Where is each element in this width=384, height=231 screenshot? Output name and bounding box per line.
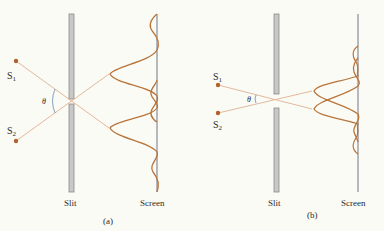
- screen-label: Screen: [140, 198, 165, 208]
- diffraction-diagram: S1 S2 θ Slit Screen (a) S1 S2 θ Slit Scr…: [0, 0, 384, 231]
- angle-arc: [255, 95, 256, 103]
- ray-s1: [16, 61, 109, 128]
- theta-label: θ: [42, 97, 46, 106]
- slit-barrier-upper: [274, 14, 279, 94]
- diffraction-pattern-upper: [110, 14, 158, 122]
- slit-barrier-lower: [69, 104, 74, 192]
- screen-label: Screen: [341, 198, 366, 208]
- panel-a: S1 S2 θ Slit Screen (a): [7, 14, 165, 226]
- s1-label: S1: [213, 71, 223, 84]
- ray-s1: [218, 85, 312, 109]
- s2-label: S2: [213, 119, 223, 132]
- caption-a: (a): [103, 216, 113, 226]
- diffraction-pattern-upper: [314, 46, 359, 142]
- source-s1-dot: [14, 59, 18, 63]
- s2-label: S2: [7, 125, 17, 138]
- panel-b: S1 S2 θ Slit Screen (b): [213, 14, 366, 220]
- s1-label: S1: [7, 70, 17, 83]
- diffraction-pattern-lower: [110, 80, 158, 192]
- source-s2-dot: [14, 139, 18, 143]
- caption-b: (b): [307, 210, 318, 220]
- theta-label: θ: [247, 95, 251, 104]
- ray-s2: [16, 74, 109, 141]
- slit-barrier-lower: [274, 108, 279, 192]
- ray-s2: [218, 91, 312, 113]
- angle-arc: [53, 89, 56, 113]
- diffraction-pattern-lower: [314, 58, 359, 154]
- slit-label: Slit: [64, 198, 77, 208]
- slit-label: Slit: [268, 198, 281, 208]
- slit-barrier-upper: [69, 14, 74, 99]
- source-s2-dot: [216, 111, 220, 115]
